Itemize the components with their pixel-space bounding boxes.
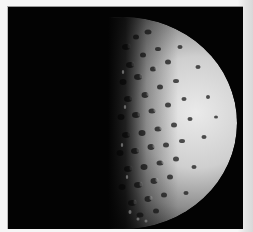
page: Cratered moon, lit from the right, termi… <box>0 0 253 232</box>
moon-photograph <box>7 6 243 229</box>
moon-illustration <box>8 7 243 229</box>
